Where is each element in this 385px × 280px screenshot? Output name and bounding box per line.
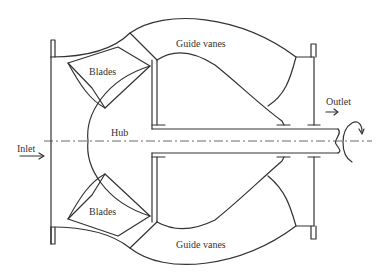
label-blades-bottom: Blades [89, 206, 116, 217]
label-guide-vanes-top: Guide vanes [176, 38, 226, 49]
left-flange [51, 40, 55, 244]
guide-vanes-bottom [130, 157, 296, 248]
label-outlet: Outlet [326, 96, 351, 107]
right-flange [308, 44, 320, 239]
label-inlet: Inlet [17, 143, 36, 154]
label-hub: Hub [111, 127, 128, 138]
pump-diagram: Guide vanes Guide vanes Blades Blades Hu… [0, 0, 385, 280]
label-blades-top: Blades [89, 66, 116, 77]
blade-top [68, 47, 150, 108]
label-guide-vanes-bottom: Guide vanes [176, 239, 226, 250]
blade-bottom [68, 174, 150, 236]
rotation-arrow-icon [343, 122, 362, 162]
